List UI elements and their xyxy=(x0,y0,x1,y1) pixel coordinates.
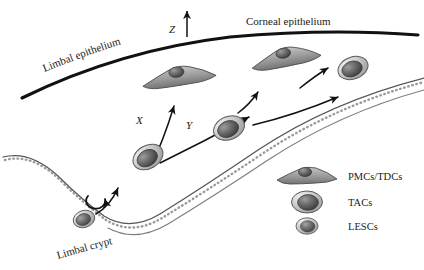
legend-tac-nucleus xyxy=(298,195,319,211)
axis-x-label: X xyxy=(135,114,144,126)
legend-label-lesc: LESCs xyxy=(348,221,378,232)
legend-pmc-nucleus xyxy=(298,167,311,176)
legend-label-tac: TACs xyxy=(348,197,372,208)
legend-label-pmc: PMCs/TDCs xyxy=(348,171,402,182)
limbal-stem-cell-diagram: Limbal epithelium Corneal epithelium Lim… xyxy=(0,0,424,270)
axis-z-label: Z xyxy=(169,23,176,35)
legend-swatch-tac xyxy=(292,191,323,213)
legend-swatch-lesc xyxy=(296,218,318,234)
legend-lesc-nucleus xyxy=(300,221,314,232)
figure-root: Limbal epithelium Corneal epithelium Lim… xyxy=(0,0,424,270)
corneal-epithelium-label: Corneal epithelium xyxy=(246,15,331,27)
